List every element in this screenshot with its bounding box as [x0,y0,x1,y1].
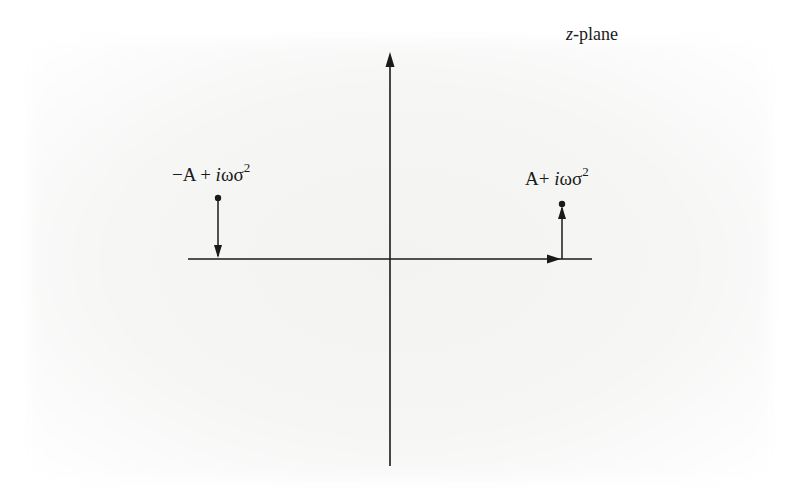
left-pole-label-greek: ωσ [221,164,244,185]
left-pole-label-exponent: 2 [244,160,251,175]
plane-title: z-plane [566,24,618,45]
imaginary-axis-arrow-icon [386,52,395,67]
right-pole-label: A+ iωσ2 [525,168,589,190]
right-pole-label-exponent: 2 [582,164,589,179]
diagram-canvas [0,0,788,497]
right-pole-arrow-up-icon [558,206,566,219]
right-pole-dot [559,201,565,207]
plane-title-variable: z [566,24,573,44]
right-pole-label-greek: ωσ [559,168,582,189]
left-pole-arrow-down-icon [214,245,222,258]
plane-title-rest: -plane [573,24,618,44]
left-pole-label-prefix: −A + [172,164,216,185]
z-plane-diagram: z-plane −A + iωσ2 A+ iωσ2 [0,0,788,497]
right-pole-label-prefix: A+ [525,168,554,189]
real-axis-arrow-icon [547,255,561,264]
left-pole-label: −A + iωσ2 [172,164,250,186]
